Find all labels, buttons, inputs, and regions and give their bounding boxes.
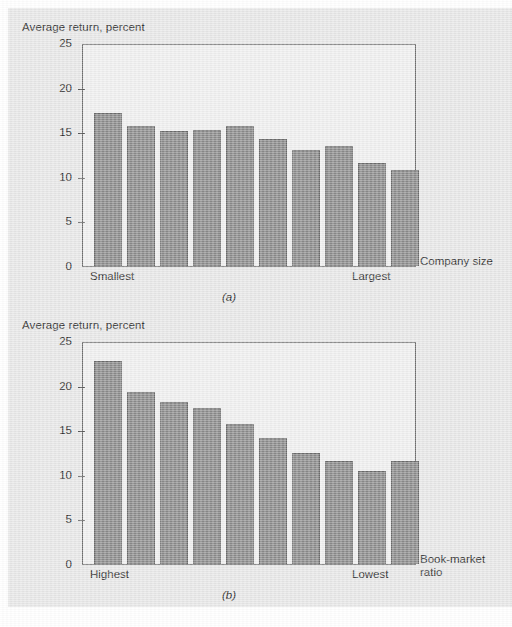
panel-b-x-axis-title-line2: ratio (420, 566, 485, 579)
y-tick-label: 15 (48, 425, 72, 437)
y-tick-mark (78, 178, 85, 179)
y-tick-label: 20 (48, 83, 72, 95)
y-tick-label: 5 (48, 216, 72, 228)
bar (391, 461, 419, 564)
panel-b-x-axis-title-line1: Book-market (420, 553, 485, 566)
bar (94, 113, 122, 266)
bar (391, 170, 419, 266)
bar (325, 146, 353, 266)
y-tick-label: 10 (48, 470, 72, 482)
panel-a-y-axis-label: Average return, percent (22, 21, 145, 33)
bar (94, 361, 122, 564)
bar (325, 461, 353, 564)
bar (358, 163, 386, 266)
chart-panel-b: Average return, percent 0510152025 Highe… (0, 298, 512, 611)
y-tick-mark (78, 133, 85, 134)
y-tick-label: 0 (48, 261, 72, 273)
bar (193, 408, 221, 564)
y-tick-label: 25 (48, 336, 72, 348)
panel-a-plot-frame (82, 44, 416, 267)
panel-b-bars (83, 343, 415, 564)
panel-b-x-start-label: Highest (90, 568, 129, 580)
panel-b-x-end-label: Lowest (352, 568, 388, 580)
panel-a-x-end-label: Largest (352, 270, 390, 282)
panel-b-y-axis-label: Average return, percent (22, 319, 145, 331)
y-tick-mark (78, 387, 85, 388)
panel-a-bars (83, 45, 415, 266)
bar (358, 471, 386, 564)
y-tick-label: 20 (48, 381, 72, 393)
figure-page: Average return, percent 0510152025 Small… (0, 0, 512, 627)
bar (160, 131, 188, 266)
y-tick-label: 0 (48, 559, 72, 571)
y-tick-label: 15 (48, 127, 72, 139)
bar (127, 392, 155, 564)
chart-panel-a: Average return, percent 0510152025 Small… (0, 0, 512, 313)
y-tick-mark (78, 476, 85, 477)
y-tick-label: 25 (48, 38, 72, 50)
y-tick-mark (78, 520, 85, 521)
panel-b-x-axis-title: Book-market ratio (420, 553, 485, 579)
panel-b-plot-frame (82, 342, 416, 565)
y-tick-mark (78, 431, 85, 432)
bar (127, 126, 155, 266)
bar (292, 453, 320, 565)
y-tick-label: 10 (48, 172, 72, 184)
y-tick-mark (78, 89, 85, 90)
bar (259, 139, 287, 266)
bar (226, 126, 254, 266)
bar (259, 438, 287, 564)
panel-a-x-start-label: Smallest (90, 270, 134, 282)
bar (193, 130, 221, 266)
bar (160, 402, 188, 564)
panel-b-caption: (b) (209, 589, 249, 601)
bar (226, 424, 254, 564)
bar (292, 150, 320, 266)
panel-a-x-axis-title: Company size (420, 255, 493, 268)
y-tick-mark (78, 222, 85, 223)
y-tick-label: 5 (48, 514, 72, 526)
